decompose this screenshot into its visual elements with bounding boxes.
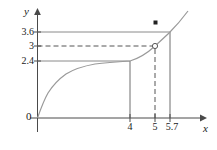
y-tick-label-3: 3	[8, 40, 34, 51]
open-circle-point-marker	[152, 43, 157, 48]
plot-canvas	[0, 0, 217, 150]
y-tick-label-3.6: 3.6	[8, 26, 34, 37]
square-point-marker	[154, 21, 158, 25]
y-axis-arrowhead	[34, 8, 41, 15]
x-axis-arrowhead	[200, 115, 207, 122]
y-axis-label: y	[24, 5, 29, 17]
x-axis-label: x	[203, 122, 208, 134]
function-graph-figure: y x 0 3.6 3 2.4 4 5 5.7	[0, 0, 217, 150]
function-curve	[38, 11, 189, 118]
x-tick-label-4: 4	[120, 121, 140, 132]
origin-label: 0	[26, 110, 32, 122]
y-tick-label-2.4: 2.4	[8, 55, 34, 66]
x-tick-label-5.7: 5.7	[160, 121, 184, 132]
